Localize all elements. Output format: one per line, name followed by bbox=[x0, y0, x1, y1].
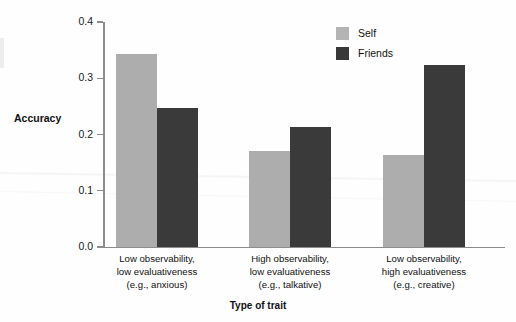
legend-label-friends: Friends bbox=[358, 48, 393, 59]
legend-label-self: Self bbox=[358, 28, 376, 39]
x-axis-title: Type of trait bbox=[0, 300, 516, 311]
y-axis-tick-label: 0.2 bbox=[67, 129, 93, 140]
y-axis-tick-label: 0.4 bbox=[67, 16, 93, 27]
scan-artifact-mark bbox=[0, 38, 4, 68]
legend-item-friends[interactable]: Friends bbox=[336, 45, 393, 61]
category-label-line: high evaluativeness bbox=[354, 265, 494, 278]
category-label-line: Low observability, bbox=[87, 252, 227, 265]
plot-area bbox=[103, 22, 503, 247]
category-label-line: (e.g., creative) bbox=[354, 278, 494, 291]
chart-legend: Self Friends bbox=[336, 25, 393, 65]
legend-swatch-self-icon bbox=[336, 27, 349, 40]
category-label-line: low evaluativeness bbox=[220, 265, 360, 278]
bar-self-3 bbox=[383, 155, 424, 247]
bar-self-2 bbox=[249, 151, 290, 247]
x-axis-category-label-2: High observability,low evaluativeness(e.… bbox=[220, 252, 360, 292]
bar-friends-2 bbox=[290, 127, 331, 247]
legend-item-self[interactable]: Self bbox=[336, 25, 393, 41]
x-axis-category-label-1: Low observability,low evaluativeness(e.g… bbox=[87, 252, 227, 292]
y-axis-title: Accuracy bbox=[14, 112, 86, 124]
category-label-line: Low observability, bbox=[354, 252, 494, 265]
y-axis-tick-label: 0.3 bbox=[67, 72, 93, 83]
category-label-line: (e.g., anxious) bbox=[87, 278, 227, 291]
chart-figure: 0.00.10.20.30.4 Accuracy Type of trait L… bbox=[0, 0, 516, 322]
bar-self-1 bbox=[116, 54, 157, 247]
x-axis-category-label-3: Low observability,high evaluativeness(e.… bbox=[354, 252, 494, 292]
bar-friends-3 bbox=[424, 65, 465, 247]
bar-friends-1 bbox=[157, 108, 198, 247]
category-label-line: High observability, bbox=[220, 252, 360, 265]
y-axis-tick-label: 0.1 bbox=[67, 185, 93, 196]
category-label-line: low evaluativeness bbox=[87, 265, 227, 278]
category-label-line: (e.g., talkative) bbox=[220, 278, 360, 291]
legend-swatch-friends-icon bbox=[336, 47, 349, 60]
y-axis-tick-label: 0.0 bbox=[67, 241, 93, 252]
